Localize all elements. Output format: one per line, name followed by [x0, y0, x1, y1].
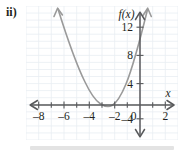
bottom-rule — [30, 146, 174, 150]
x-tick-label-2: 2 — [162, 110, 168, 122]
y-tick-label-12: 12 — [122, 21, 134, 33]
x-tick-label--4: –4 — [83, 110, 96, 122]
function-label: f(x) — [119, 8, 135, 21]
x-tick-label--2: –2 — [108, 110, 121, 122]
math-figure: ii) — [0, 0, 185, 154]
y-tick-label-8: 8 — [127, 49, 133, 61]
y-tick-label--4: –4 — [121, 113, 134, 125]
plot-area: –8 –6 –4 –2 0 2 12 8 4 –4 f(x) x — [26, 6, 178, 140]
x-tick-label--8: –8 — [32, 110, 45, 122]
y-tick-label-4: 4 — [127, 78, 133, 90]
x-tick-label--6: –6 — [57, 110, 70, 122]
coordinate-plane: –8 –6 –4 –2 0 2 12 8 4 –4 f(x) x — [26, 6, 178, 140]
x-axis-label: x — [164, 87, 171, 99]
item-label: ii) — [6, 6, 17, 18]
